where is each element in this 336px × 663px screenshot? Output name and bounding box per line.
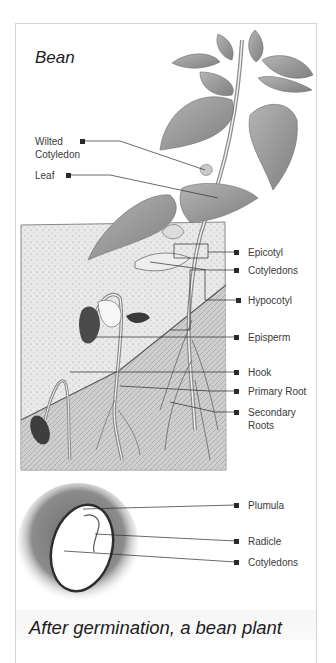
label-episperm: Episperm: [248, 331, 290, 344]
label-line: Cotyledon: [35, 148, 80, 161]
leader-marker: [236, 298, 241, 303]
label-line: Secondary: [248, 406, 296, 419]
leader-marker: [80, 139, 85, 144]
leader-marker: [234, 370, 239, 375]
label-line: Wilted: [35, 135, 80, 148]
leader-marker: [234, 335, 239, 340]
leader-marker: [234, 539, 239, 544]
leader-marker: [234, 410, 239, 415]
label-leaf: Leaf: [35, 169, 54, 182]
leader-marker: [66, 173, 71, 178]
label-cotyledons-upper: Cotyledons: [248, 264, 298, 277]
leader-marker: [234, 560, 239, 565]
diagram-caption: After germination, a bean plant: [29, 617, 282, 639]
leader-marker: [234, 250, 239, 255]
label-epicotyl: Epicotyl: [248, 246, 283, 259]
label-primary-root: Primary Root: [248, 385, 306, 398]
label-plumula: Plumula: [248, 499, 284, 512]
leader-marker: [234, 389, 239, 394]
label-line: Roots: [248, 419, 296, 432]
diagram-title: Bean: [35, 48, 75, 68]
seed-cross-section: [18, 483, 138, 603]
label-cotyledons-lower: Cotyledons: [248, 556, 298, 569]
label-radicle: Radicle: [248, 535, 281, 548]
label-hypocotyl: Hypocotyl: [248, 294, 292, 307]
label-wilted-cotyledon: Wilted Cotyledon: [35, 135, 80, 161]
label-hook: Hook: [248, 366, 271, 379]
label-secondary-roots: Secondary Roots: [248, 406, 296, 432]
leader-marker: [234, 503, 239, 508]
leader-marker: [234, 268, 239, 273]
